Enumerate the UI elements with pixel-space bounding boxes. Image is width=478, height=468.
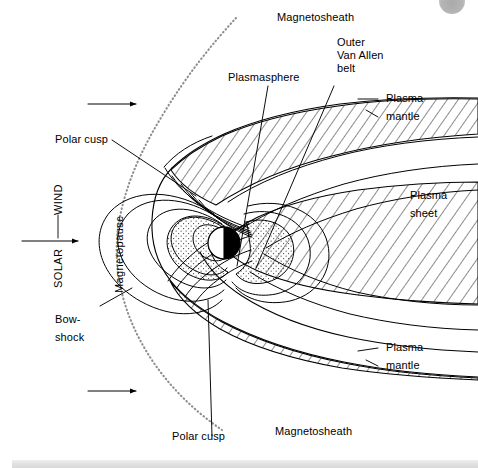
label-polar-cusp-top: Polar cusp (55, 133, 108, 146)
label-plasma-sheet-line1: Plasma (410, 189, 447, 202)
label-plasma-mantle-top-line1: Plasma (386, 92, 423, 105)
label-outer-van-allen-belt-line1: Outer (337, 36, 365, 49)
label-outer-van-allen-belt-line3: belt (337, 62, 355, 75)
label-magnetosheath-bottom: Magnetosheath (275, 425, 352, 438)
label-plasma-sheet-line2: sheet (410, 207, 437, 220)
label-plasmasphere: Plasmasphere (228, 71, 300, 84)
label-magnetosheath-top: Magnetosheath (277, 11, 354, 24)
label-plasma-mantle-top-line2: mantle (386, 110, 420, 123)
diagram-canvas: Magnetosheath Outer Van Allen belt Plasm… (0, 0, 478, 468)
label-bow-shock-line1: Bow- (55, 313, 80, 326)
label-plasma-mantle-bottom-line2: mantle (386, 359, 420, 372)
label-outer-van-allen-belt-line2: Van Allen (337, 49, 384, 62)
bottom-scrollbar[interactable] (12, 460, 478, 468)
label-solar: SOLAR (52, 249, 65, 288)
earth-symbol (208, 227, 240, 259)
label-polar-cusp-bottom: Polar cusp (172, 430, 225, 443)
label-wind: WIND (52, 184, 65, 215)
label-plasma-mantle-bottom-line1: Plasma (386, 341, 423, 354)
label-magnetopause: Magnetopause (113, 215, 126, 293)
label-bow-shock-line2: shock (55, 331, 84, 344)
